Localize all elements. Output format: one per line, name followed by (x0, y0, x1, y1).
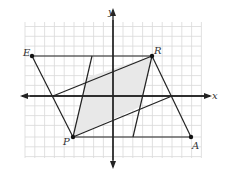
coordinate-diagram: E R A P x y (0, 0, 228, 178)
label-P: P (62, 136, 70, 147)
point-P (71, 135, 75, 139)
x-axis-label: x (212, 90, 218, 101)
y-axis-label: y (107, 6, 114, 17)
point-E (30, 54, 34, 58)
label-E: E (22, 47, 31, 58)
label-A: A (191, 140, 199, 151)
point-A (189, 135, 193, 139)
label-R: R (153, 45, 162, 56)
